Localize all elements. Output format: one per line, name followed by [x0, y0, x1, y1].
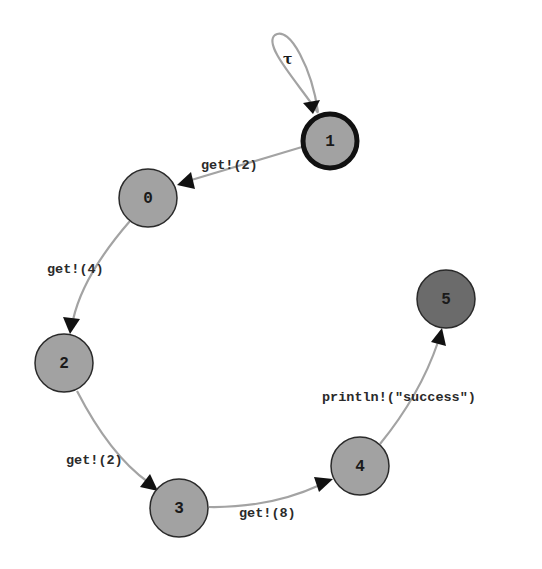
edge-label-tau: τ	[283, 51, 292, 67]
edge-1-to-1: τ	[272, 34, 320, 114]
state-graph: τ get!(2) get!(4) get!(2) get!(8) printl…	[0, 0, 542, 569]
edge-2-to-3: get!(2)	[66, 391, 158, 491]
edge-1-to-0: get!(2)	[177, 147, 302, 189]
edge-label-4-5: println!("success")	[322, 390, 476, 405]
node-4: 4	[331, 437, 389, 495]
node-1-initial: 1	[303, 114, 357, 168]
arrowhead-icon	[63, 317, 80, 334]
node-5-final: 5	[417, 270, 475, 328]
edge-3-to-4: get!(8)	[209, 477, 333, 521]
edge-0-to-2: get!(4)	[47, 221, 130, 334]
node-3: 3	[150, 479, 208, 537]
edge-4-to-5: println!("success")	[322, 328, 476, 444]
edge-label-0-2: get!(4)	[47, 262, 104, 277]
node-label: 1	[325, 133, 335, 151]
node-2: 2	[35, 334, 93, 392]
node-label: 4	[355, 458, 365, 476]
node-label: 2	[59, 355, 69, 373]
node-label: 0	[143, 190, 153, 208]
arrowhead-icon	[431, 328, 446, 346]
node-label: 5	[441, 291, 451, 309]
node-label: 3	[174, 500, 184, 518]
arrowhead-icon	[177, 172, 195, 189]
arrowhead-icon	[140, 474, 158, 491]
node-0: 0	[119, 169, 177, 227]
edge-label-3-4: get!(8)	[239, 506, 296, 521]
edge-label-2-3: get!(2)	[66, 453, 123, 468]
arrowhead-icon	[314, 477, 333, 492]
edge-label-1-0: get!(2)	[201, 158, 258, 173]
